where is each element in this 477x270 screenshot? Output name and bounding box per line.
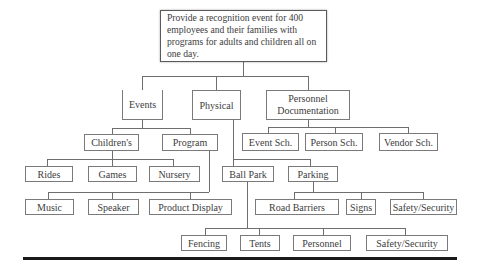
node-event-sch-label: Event Sch. bbox=[249, 137, 292, 148]
node-ball-park: Ball Park bbox=[222, 166, 274, 182]
node-speaker: Speaker bbox=[88, 199, 139, 215]
root-objective-label: Provide a recognition event for 400 empl… bbox=[167, 12, 326, 60]
bottom-rule-divider bbox=[23, 257, 457, 260]
node-road-barriers-label: Road Barriers bbox=[269, 202, 325, 213]
node-ball-park-label: Ball Park bbox=[229, 169, 267, 180]
node-rides: Rides bbox=[25, 166, 73, 182]
node-fencing-label: Fencing bbox=[188, 238, 220, 249]
node-fencing: Fencing bbox=[181, 235, 227, 251]
node-product-display-label: Product Display bbox=[158, 202, 223, 213]
node-parking-label: Parking bbox=[297, 169, 328, 180]
node-events: Events bbox=[122, 90, 163, 120]
node-tents-label: Tents bbox=[249, 238, 271, 249]
node-personnel-documentation: Personnel Documentation bbox=[266, 90, 350, 120]
node-events-label: Events bbox=[129, 99, 156, 110]
wbs-diagram: Provide a recognition event for 400 empl… bbox=[0, 0, 477, 270]
node-games-label: Games bbox=[99, 169, 127, 180]
node-product-display: Product Display bbox=[149, 199, 232, 215]
node-speaker-label: Speaker bbox=[97, 202, 129, 213]
node-childrens: Children's bbox=[84, 134, 139, 151]
node-music: Music bbox=[25, 199, 74, 215]
node-nursery-label: Nursery bbox=[158, 169, 190, 180]
node-parking-safety-security: Safety/Security bbox=[390, 199, 457, 215]
node-personnel-label: Personnel bbox=[302, 238, 341, 249]
node-program-label: Program bbox=[173, 137, 207, 148]
node-games: Games bbox=[88, 166, 137, 182]
node-event-sch: Event Sch. bbox=[242, 133, 299, 151]
node-childrens-label: Children's bbox=[91, 137, 132, 148]
node-signs: Signs bbox=[346, 199, 376, 215]
node-personnel-documentation-label: Personnel Documentation bbox=[267, 93, 349, 117]
node-parking-safety-security-label: Safety/Security bbox=[393, 202, 455, 213]
node-person-sch-label: Person Sch. bbox=[310, 137, 357, 148]
node-personnel: Personnel bbox=[293, 235, 351, 251]
root-objective-box: Provide a recognition event for 400 empl… bbox=[160, 10, 327, 62]
node-vendor-sch: Vendor Sch. bbox=[379, 133, 438, 151]
node-person-sch: Person Sch. bbox=[305, 133, 363, 151]
node-nursery: Nursery bbox=[149, 166, 200, 182]
node-music-label: Music bbox=[37, 202, 62, 213]
node-signs-label: Signs bbox=[350, 202, 372, 213]
node-road-barriers: Road Barriers bbox=[255, 199, 339, 215]
node-vendor-sch-label: Vendor Sch. bbox=[384, 137, 433, 148]
node-physical: Physical bbox=[192, 90, 241, 120]
node-ballpark-safety-security: Safety/Security bbox=[366, 235, 448, 251]
node-program: Program bbox=[162, 134, 218, 151]
node-tents: Tents bbox=[240, 235, 280, 251]
node-rides-label: Rides bbox=[38, 169, 61, 180]
node-parking: Parking bbox=[288, 166, 338, 182]
node-ballpark-safety-security-label: Safety/Security bbox=[376, 238, 438, 249]
node-physical-label: Physical bbox=[200, 100, 234, 111]
